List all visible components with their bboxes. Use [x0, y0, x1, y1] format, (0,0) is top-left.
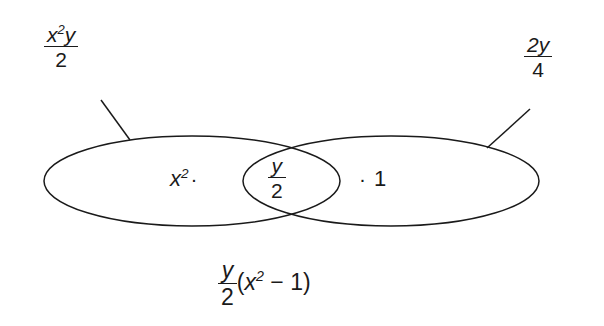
left-callout-leader-line [101, 100, 130, 140]
left-callout-numerator-exponent: 2 [58, 22, 65, 37]
left-callout-fraction: x2y 2 [44, 24, 78, 70]
caption-numerator: y [218, 259, 237, 284]
right-set-ellipse [243, 136, 539, 226]
left-callout-label: x2y 2 [44, 24, 78, 70]
left-region-label: x2· [170, 168, 200, 190]
caption-one: 1 [290, 269, 303, 295]
caption-close-paren: ) [303, 269, 311, 295]
left-callout-numerator-tail: y [65, 23, 76, 46]
right-callout-label: 2y 4 [524, 34, 552, 80]
left-callout-denominator: 2 [44, 47, 78, 70]
caption-minus-sign: − [270, 269, 283, 295]
venn-diagram: x2y 2 2y 4 x2· y 2 · 1 y 2 (x2 − 1) [0, 0, 604, 326]
left-region-exponent: 2 [181, 166, 189, 181]
caption-fraction: y 2 [218, 259, 237, 309]
right-region-multiplication-dot: · [357, 167, 368, 190]
right-callout-leader-line [487, 109, 530, 148]
intersection-fraction: y 2 [268, 155, 286, 201]
right-region-label: · 1 [357, 168, 386, 190]
caption-exponent: 2 [256, 268, 264, 284]
left-callout-numerator-base: x [47, 23, 58, 46]
caption-formula: y 2 (x2 − 1) [218, 259, 311, 309]
right-callout-denominator: 4 [524, 57, 552, 80]
right-callout-numerator: 2y [524, 34, 552, 57]
intersection-numerator: y [268, 155, 286, 178]
intersection-denominator: 2 [268, 178, 286, 201]
caption-denominator: 2 [218, 284, 237, 309]
right-region-value: 1 [374, 166, 386, 191]
intersection-label: y 2 [268, 155, 286, 201]
caption-base: x [244, 269, 256, 295]
left-region-multiplication-dot: · [189, 167, 200, 190]
left-callout-numerator: x2y [44, 24, 78, 47]
left-region-base: x [170, 166, 181, 191]
right-callout-fraction: 2y 4 [524, 34, 552, 80]
